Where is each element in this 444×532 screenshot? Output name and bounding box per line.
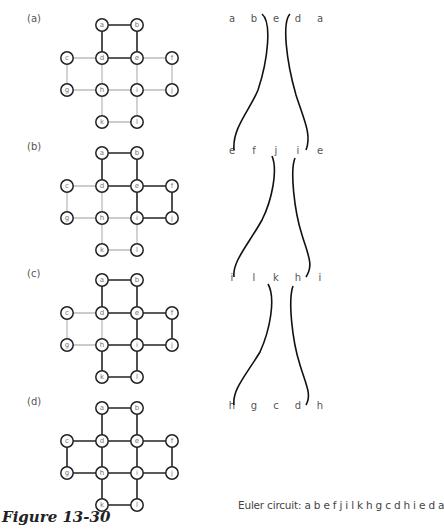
svg-text:a: a	[100, 149, 104, 157]
node-b: b	[131, 19, 143, 31]
svg-text:b: b	[135, 21, 140, 29]
svg-text:l: l	[136, 246, 138, 254]
graph-edges	[67, 280, 172, 377]
svg-text:h: h	[100, 214, 104, 222]
sequence-vertex: f	[252, 145, 256, 156]
node-a: a	[96, 402, 108, 414]
circuit-sequence: abeda	[229, 13, 323, 24]
svg-text:d: d	[100, 54, 104, 62]
graph-nodes: abcdefghijkl	[61, 402, 178, 511]
sequence-vertex: h	[317, 400, 323, 411]
sequence-vertex: d	[295, 13, 301, 24]
sequence-vertex: i	[231, 272, 234, 283]
panel-d: (d)abcdefghijklhgcdh	[27, 396, 323, 511]
svg-text:e: e	[135, 182, 139, 190]
svg-text:l: l	[136, 373, 138, 381]
svg-text:b: b	[135, 276, 140, 284]
euler-circuit-result: Euler circuit: a b e f j i l k h g c d h…	[238, 499, 444, 511]
panel-label: (c)	[27, 268, 40, 279]
graph-edges	[67, 153, 172, 250]
svg-text:d: d	[100, 182, 104, 190]
svg-text:g: g	[65, 341, 69, 349]
node-f: f	[166, 435, 178, 447]
node-e: e	[131, 435, 143, 447]
splice-curves	[234, 14, 310, 405]
node-d: d	[96, 180, 108, 192]
sequence-vertex: g	[251, 400, 257, 411]
node-l: l	[131, 244, 143, 256]
node-f: f	[166, 180, 178, 192]
sequence-vertex: e	[273, 13, 279, 24]
svg-text:c: c	[65, 182, 69, 190]
node-j: j	[166, 467, 178, 479]
node-h: h	[96, 212, 108, 224]
graph-nodes: abcdefghijkl	[61, 147, 178, 256]
node-a: a	[96, 274, 108, 286]
svg-text:i: i	[136, 86, 138, 94]
node-g: g	[61, 84, 73, 96]
node-c: c	[61, 307, 73, 319]
svg-text:l: l	[136, 118, 138, 126]
node-h: h	[96, 339, 108, 351]
node-c: c	[61, 52, 73, 64]
svg-text:b: b	[135, 404, 140, 412]
circuit-sequence: hgcdh	[229, 400, 323, 411]
graph-nodes: abcdefghijkl	[61, 274, 178, 383]
node-e: e	[131, 307, 143, 319]
node-a: a	[96, 147, 108, 159]
sequence-vertex: i	[319, 272, 322, 283]
node-k: k	[96, 116, 108, 128]
svg-text:a: a	[100, 276, 104, 284]
node-k: k	[96, 244, 108, 256]
sequence-vertex: d	[295, 400, 301, 411]
node-i: i	[131, 212, 143, 224]
node-j: j	[166, 339, 178, 351]
node-h: h	[96, 84, 108, 96]
node-f: f	[166, 52, 178, 64]
sequence-vertex: b	[251, 13, 257, 24]
svg-text:d: d	[100, 309, 104, 317]
svg-text:c: c	[65, 54, 69, 62]
panel-label: (b)	[27, 141, 41, 152]
node-g: g	[61, 339, 73, 351]
graph-edges	[67, 408, 172, 505]
sequence-vertex: l	[253, 272, 256, 283]
node-l: l	[131, 499, 143, 511]
svg-text:e: e	[135, 309, 139, 317]
node-l: l	[131, 116, 143, 128]
sequence-vertex: e	[317, 145, 323, 156]
sequence-vertex: k	[273, 272, 279, 283]
svg-text:c: c	[65, 309, 69, 317]
node-e: e	[131, 52, 143, 64]
svg-text:g: g	[65, 86, 69, 94]
svg-text:j: j	[170, 469, 173, 477]
svg-text:l: l	[136, 501, 138, 509]
node-j: j	[166, 84, 178, 96]
node-b: b	[131, 402, 143, 414]
graph-edges	[67, 25, 172, 122]
splice-curve	[286, 14, 308, 150]
splice-curve	[293, 158, 310, 277]
splice-curve	[234, 284, 272, 405]
node-d: d	[96, 307, 108, 319]
svg-text:d: d	[100, 437, 104, 445]
sequence-vertex: c	[273, 400, 279, 411]
node-d: d	[96, 435, 108, 447]
node-e: e	[131, 180, 143, 192]
node-k: k	[96, 371, 108, 383]
node-j: j	[166, 212, 178, 224]
node-a: a	[96, 19, 108, 31]
svg-text:j: j	[170, 214, 173, 222]
svg-text:h: h	[100, 469, 104, 477]
svg-text:e: e	[135, 437, 139, 445]
sequence-vertex: j	[274, 145, 278, 156]
panel-label: (a)	[27, 13, 41, 24]
node-b: b	[131, 147, 143, 159]
splice-curve	[291, 286, 309, 405]
svg-text:i: i	[136, 469, 138, 477]
svg-text:h: h	[100, 341, 104, 349]
node-h: h	[96, 467, 108, 479]
node-g: g	[61, 467, 73, 479]
svg-text:i: i	[136, 214, 138, 222]
graph-nodes: abcdefghijkl	[61, 19, 178, 128]
